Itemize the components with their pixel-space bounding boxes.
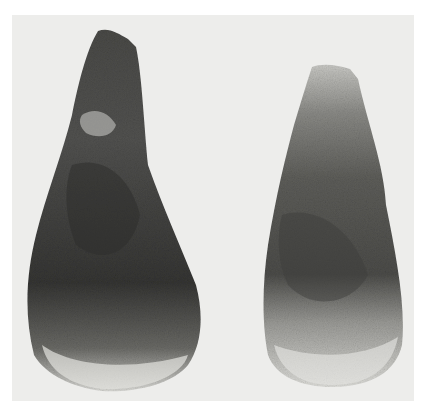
left-hand-axe xyxy=(27,30,200,392)
photograph xyxy=(12,15,414,401)
photo-plate xyxy=(12,15,414,401)
cropped-caption-text xyxy=(0,0,429,3)
right-hand-axe xyxy=(264,65,403,387)
